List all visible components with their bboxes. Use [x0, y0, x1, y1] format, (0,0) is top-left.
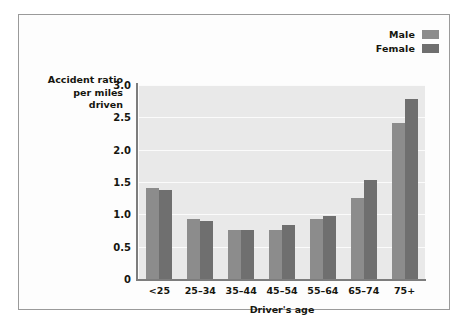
- y-axis-tick-label: 2.0: [113, 144, 131, 155]
- bar-group: 25–34: [180, 85, 221, 279]
- x-axis-line: [136, 279, 426, 281]
- x-axis-tick-label: 35–44: [221, 285, 262, 296]
- y-axis-tick-label: 2.5: [113, 112, 131, 123]
- bar-male[interactable]: [351, 198, 364, 279]
- bar-female[interactable]: [282, 225, 295, 279]
- bar-male[interactable]: [228, 230, 241, 279]
- y-axis-tick-label: 3.0: [113, 80, 131, 91]
- legend-label-male: Male: [389, 29, 415, 40]
- bar-female[interactable]: [405, 99, 418, 279]
- x-axis-tick-label: 75+: [384, 285, 425, 296]
- y-axis-tick-label: 0: [124, 274, 131, 285]
- x-axis-tick-label: 55–64: [302, 285, 343, 296]
- bar-groups: <2525–3435–4445–5455–6465–7475+: [139, 85, 425, 279]
- x-axis-tick-label: 45–54: [262, 285, 303, 296]
- legend-item-female: Female: [376, 43, 439, 54]
- bar-male[interactable]: [392, 123, 405, 279]
- y-axis-title-line-2: per miles: [27, 87, 123, 100]
- bar-group: 75+: [384, 85, 425, 279]
- x-axis-tick-label: <25: [139, 285, 180, 296]
- bar-group: 65–74: [343, 85, 384, 279]
- y-axis-title: Accident ratio per miles driven: [27, 74, 123, 112]
- bar-male[interactable]: [269, 230, 282, 279]
- bar-male[interactable]: [310, 219, 323, 279]
- bar-group: 45–54: [262, 85, 303, 279]
- bar-group: 55–64: [302, 85, 343, 279]
- x-axis-tick-label: 65–74: [343, 285, 384, 296]
- legend-swatch-male: [422, 30, 439, 39]
- y-axis-line: [136, 83, 138, 281]
- legend-label-female: Female: [376, 43, 415, 54]
- bar-male[interactable]: [187, 219, 200, 279]
- bar-group: <25: [139, 85, 180, 279]
- y-axis-tick-label: 1.0: [113, 209, 131, 220]
- x-axis-tick-label: 25–34: [180, 285, 221, 296]
- y-axis-title-line-1: Accident ratio: [27, 74, 123, 87]
- y-axis-tick-label: 0.5: [113, 241, 131, 252]
- legend-item-male: Male: [389, 29, 439, 40]
- bar-female[interactable]: [200, 221, 213, 279]
- chart-figure: Male Female Accident ratio per miles dri…: [18, 14, 450, 310]
- legend-swatch-female: [422, 44, 439, 53]
- y-axis-tick-label: 1.5: [113, 177, 131, 188]
- y-axis-title-line-3: driven: [27, 99, 123, 112]
- bar-female[interactable]: [364, 180, 377, 279]
- bar-female[interactable]: [241, 230, 254, 279]
- bar-male[interactable]: [146, 188, 159, 279]
- bar-female[interactable]: [159, 190, 172, 279]
- bar-group: 35–44: [221, 85, 262, 279]
- plot-area: 00.51.01.52.02.53.0 <2525–3435–4445–5455…: [139, 85, 425, 279]
- bar-female[interactable]: [323, 216, 336, 279]
- chart-legend: Male Female: [376, 29, 439, 54]
- x-axis-title: Driver's age: [139, 304, 425, 315]
